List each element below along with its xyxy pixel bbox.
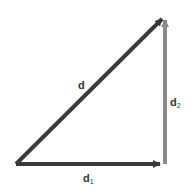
vector-triangle [0, 0, 191, 192]
label-d: d [78, 80, 85, 91]
vector-d-arrow [16, 19, 162, 164]
label-d2: d2 [170, 97, 181, 109]
vector-diagram: d d2 d1 [0, 0, 191, 192]
label-d1: d1 [83, 173, 94, 185]
